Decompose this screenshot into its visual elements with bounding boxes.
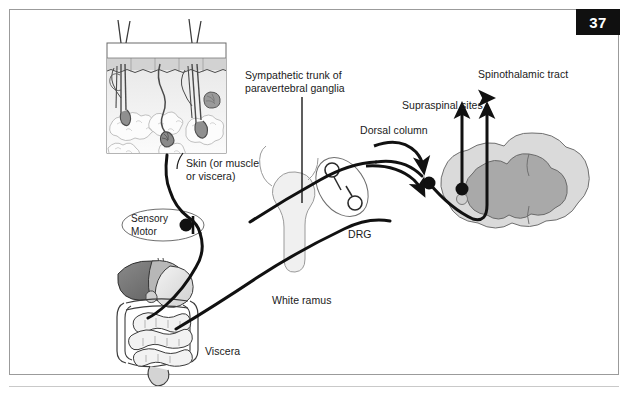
label-sympathetic-trunk: Sympathetic trunk of paravertebral gangl… — [245, 69, 345, 94]
label-viscera: Viscera — [205, 345, 240, 358]
page-number: 37 — [576, 9, 620, 35]
label-skin: Skin (or muscle or viscera) — [186, 157, 259, 182]
label-supraspinal-sites: Supraspinal sites — [402, 99, 483, 112]
figure-page: Sympathetic trunk of paravertebral gangl… — [0, 0, 629, 398]
label-sensory-motor: Sensory Motor — [131, 212, 168, 238]
bottom-rule — [9, 386, 619, 387]
figure-frame — [9, 9, 619, 375]
label-spinothalamic-tract: Spinothalamic tract — [478, 68, 568, 81]
label-drg: DRG — [348, 228, 371, 241]
label-dorsal-column: Dorsal column — [360, 124, 428, 137]
label-white-ramus: White ramus — [272, 294, 331, 307]
